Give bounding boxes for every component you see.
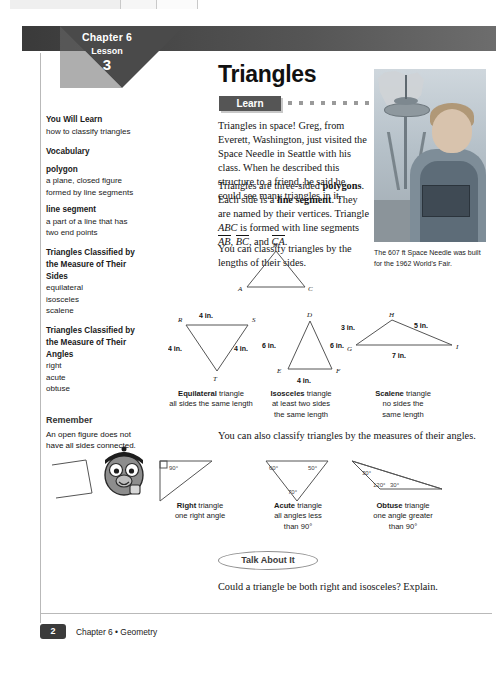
isosceles-vertex-f: F: [335, 367, 341, 375]
learn-section-tab: Learn: [219, 96, 281, 111]
scalene-vertex-g: G: [347, 345, 352, 353]
chapter-lesson-badge: Chapter 6 Lesson 3: [62, 31, 152, 73]
right-triangle-diagram: 90°: [150, 449, 234, 505]
obtuse-caption-line3: than 90°: [348, 522, 458, 532]
equilateral-side-right: 4 in.: [234, 345, 248, 352]
equilateral-caption: Equilateral triangle all sides the same …: [156, 389, 266, 410]
classified-by-angles-heading: Triangles Classified by the Measure of T…: [46, 325, 138, 360]
equilateral-side-left: 4 in.: [168, 345, 182, 352]
isosceles-caption-line2: at least two sides: [251, 399, 351, 409]
obtuse-angle-3: 30°: [390, 482, 400, 488]
equilateral-caption-rest: triangle: [217, 389, 244, 398]
equilateral-vertex-s: S: [252, 316, 256, 324]
needle-mast: [404, 105, 407, 189]
decorative-dot: [288, 101, 292, 105]
obtuse-angle-1: 30°: [362, 470, 372, 476]
student-book: [422, 185, 470, 217]
decorative-dot: [321, 101, 325, 105]
p2-line-segment: line segment: [277, 194, 332, 205]
scalene-vertex-h: H: [388, 311, 395, 319]
lesson-label: Lesson: [62, 46, 152, 56]
sides-item-isosceles: isosceles: [46, 294, 138, 305]
p2-polygons: polygons: [323, 180, 362, 191]
equilateral-side-top: 4 in.: [199, 312, 213, 319]
equilateral-caption-line2: all sides the same length: [156, 399, 266, 409]
decorative-dot: [343, 101, 347, 105]
obtuse-angle-2: 120°: [373, 482, 386, 488]
vocabulary-heading: Vocabulary: [46, 146, 138, 158]
scalene-side-right: 5 in.: [414, 322, 428, 329]
learn-tab-label: Learn: [219, 96, 281, 111]
needle-observation-deck: [384, 103, 430, 117]
vocab-term-line-segment: line segment: [46, 204, 138, 216]
footer-divider: [40, 613, 492, 614]
isosceles-side-base: 4 in.: [297, 377, 311, 384]
classified-by-sides-heading: Triangles Classified by the Measure of T…: [46, 247, 138, 282]
isosceles-caption-rest: triangle: [305, 389, 332, 398]
isosceles-vertex-d: D: [306, 311, 312, 319]
footer-text: Chapter 6 • Geometry: [76, 627, 157, 637]
isosceles-side-left: 6 in.: [262, 342, 276, 349]
acute-caption: Acute triangle all angles less than 90°: [248, 501, 348, 532]
obtuse-caption-line2: one angle greater: [348, 511, 458, 521]
p2-g: is formed with line segments: [237, 222, 359, 233]
scalene-triangle-diagram: G H I 3 in. 5 in. 7 in.: [340, 307, 470, 367]
photo-caption: The 607 ft Space Needle was built for th…: [374, 248, 490, 269]
right-caption: Right triangle one right angle: [150, 501, 250, 522]
triangle-abc-vertex-b: B: [273, 241, 278, 249]
isosceles-vertex-e: E: [276, 367, 282, 375]
angles-lead-text: You can also classify triangles by the m…: [218, 430, 476, 441]
sides-item-equilateral: equilateral: [46, 282, 138, 293]
decorative-dot: [310, 101, 314, 105]
scalene-side-left: 3 in.: [341, 324, 355, 331]
student-head: [432, 109, 472, 153]
right-caption-line2: one right angle: [150, 511, 250, 521]
p2-abc: ABC: [218, 222, 237, 233]
talk-about-it-label: Talk About It: [219, 552, 317, 569]
obtuse-triangle-diagram: 30° 120° 30°: [344, 449, 454, 507]
acute-caption-rest: triangle: [295, 501, 322, 510]
scalene-caption: Scalene triangle no sides the same lengt…: [348, 389, 458, 420]
equilateral-caption-bold: Equilateral: [178, 389, 217, 398]
triangle-abc-vertex-c: C: [308, 285, 313, 293]
talk-about-it-question: Could a triangle be both right and isosc…: [218, 581, 438, 592]
triangle-abc-vertex-a: A: [237, 285, 243, 293]
acute-triangle-diagram: 60° 50° 70°: [254, 449, 338, 507]
isosceles-caption-bold: Isosceles: [270, 389, 304, 398]
you-will-learn-text: how to classify triangles: [46, 126, 138, 137]
acute-caption-bold: Acute: [274, 501, 295, 510]
vocab-term-polygon: polygon: [46, 164, 138, 176]
left-column-divider: [40, 53, 41, 623]
vocab-definition-polygon: a plane, closed figure formed by line se…: [46, 175, 138, 198]
textbook-page: Chapter 6 Lesson 3 You Will Learn how to…: [0, 9, 496, 674]
you-will-learn-heading: You Will Learn: [46, 114, 138, 126]
angles-item-acute: acute: [46, 372, 138, 383]
p2-a: Triangles are three-sided: [218, 180, 323, 191]
triangle-abc-diagram: A B C: [233, 237, 319, 299]
sides-item-scalene: scalene: [46, 305, 138, 316]
obtuse-caption: Obtuse triangle one angle greater than 9…: [348, 501, 458, 532]
chapter-label: Chapter 6: [62, 31, 152, 43]
decorative-dot: [299, 101, 303, 105]
equilateral-vertex-t: T: [213, 375, 218, 383]
decorative-dot: [354, 101, 358, 105]
angles-item-right: right: [46, 360, 138, 371]
obtuse-caption-rest: triangle: [403, 501, 430, 510]
acute-angle-1: 60°: [269, 465, 279, 471]
talk-about-it-badge: Talk About It: [218, 551, 318, 570]
mascot-character-icon: [98, 441, 150, 499]
space-needle-photo: [374, 69, 486, 242]
scalene-caption-line3: same length: [348, 410, 458, 420]
acute-caption-line3: than 90°: [248, 522, 348, 532]
isosceles-caption: Isosceles triangle at least two sides th…: [251, 389, 351, 420]
acute-angle-3: 70°: [288, 489, 298, 495]
scalene-side-base: 7 in.: [392, 352, 406, 359]
right-caption-rest: triangle: [196, 501, 223, 510]
sidebar: You Will Learn how to classify triangles…: [46, 114, 138, 394]
page-number: 2: [40, 624, 66, 639]
page-title: Triangles: [218, 61, 316, 88]
scalene-vertex-i: I: [455, 343, 459, 351]
equilateral-vertex-r: R: [177, 316, 183, 324]
open-figure-icon: [48, 457, 96, 501]
scalene-caption-bold: Scalene: [375, 389, 404, 398]
